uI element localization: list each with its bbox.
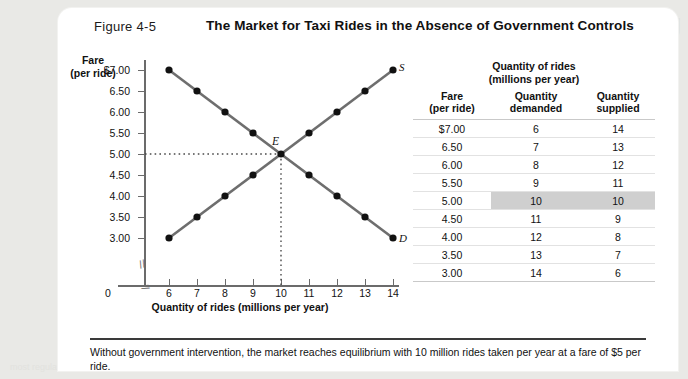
cell-demanded-highlighted: 10 bbox=[491, 192, 581, 210]
table-row: $7.00614 bbox=[413, 120, 655, 138]
cell-fare: 6.50 bbox=[413, 138, 491, 156]
figure-card: Figure 4-5 The Market for Taxi Rides in … bbox=[58, 8, 678, 371]
cell-fare: 6.00 bbox=[413, 156, 491, 174]
table-row: 4.50119 bbox=[413, 210, 655, 228]
column-header-quantity-supplied: Quantitysupplied bbox=[581, 88, 655, 120]
supply-demand-table: Fare(per ride) Quantitydemanded Quantity… bbox=[413, 88, 655, 282]
column-header-fare: Fare(per ride) bbox=[413, 88, 491, 120]
table-group-header: Quantity of rides (millions per year) bbox=[413, 60, 655, 88]
table-row-equilibrium: 5.001010 bbox=[413, 192, 655, 210]
supply-curve-label: S bbox=[399, 61, 405, 73]
figure-title: The Market for Taxi Rides in the Absence… bbox=[206, 18, 634, 33]
cell-fare: 5.50 bbox=[413, 174, 491, 192]
cell-demanded: 11 bbox=[491, 210, 581, 228]
figure-number: Figure 4-5 bbox=[94, 19, 156, 34]
table-row: 5.50911 bbox=[413, 174, 655, 192]
cell-supplied: 14 bbox=[581, 120, 655, 138]
table-row: 3.50137 bbox=[413, 246, 655, 264]
plot-svg bbox=[58, 46, 408, 326]
data-table-wrapper: Quantity of rides (millions per year) Fa… bbox=[413, 60, 655, 282]
cell-supplied: 7 bbox=[581, 246, 655, 264]
table-row: 3.00146 bbox=[413, 264, 655, 282]
cell-demanded: 9 bbox=[491, 174, 581, 192]
figure-header: Figure 4-5 The Market for Taxi Rides in … bbox=[58, 18, 678, 42]
cell-demanded: 14 bbox=[491, 264, 581, 282]
equilibrium-point-label: E bbox=[272, 135, 279, 147]
demand-curve-label: D bbox=[399, 232, 407, 244]
table-header-row: Fare(per ride) Quantitydemanded Quantity… bbox=[413, 88, 655, 120]
cell-demanded: 8 bbox=[491, 156, 581, 174]
cell-supplied: 13 bbox=[581, 138, 655, 156]
cell-fare: 5.00 bbox=[413, 192, 491, 210]
cell-fare: 3.50 bbox=[413, 246, 491, 264]
cell-supplied-highlighted: 10 bbox=[581, 192, 655, 210]
cell-supplied: 9 bbox=[581, 210, 655, 228]
cell-fare: $7.00 bbox=[413, 120, 491, 138]
x-axis-label: Quantity of rides (millions per year) bbox=[80, 301, 400, 313]
cell-fare: 4.50 bbox=[413, 210, 491, 228]
cell-demanded: 6 bbox=[491, 120, 581, 138]
cell-fare: 3.00 bbox=[413, 264, 491, 282]
table-row: 6.50713 bbox=[413, 138, 655, 156]
table-row: 6.00812 bbox=[413, 156, 655, 174]
cell-demanded: 13 bbox=[491, 246, 581, 264]
caption-divider bbox=[90, 338, 646, 340]
cell-demanded: 7 bbox=[491, 138, 581, 156]
cell-supplied: 6 bbox=[581, 264, 655, 282]
figure-caption: Without government intervention, the mar… bbox=[90, 345, 646, 373]
table-group-header-sub: (millions per year) bbox=[413, 73, 655, 86]
column-header-quantity-demanded: Quantitydemanded bbox=[491, 88, 581, 120]
cell-demanded: 12 bbox=[491, 228, 581, 246]
table-group-header-main: Quantity of rides bbox=[413, 60, 655, 73]
cell-supplied: 8 bbox=[581, 228, 655, 246]
cell-fare: 4.00 bbox=[413, 228, 491, 246]
chart-area: Fare (per ride) $7.00 6.50 6.00 5.50 5.0… bbox=[58, 46, 408, 326]
table-row: 4.00128 bbox=[413, 228, 655, 246]
cell-supplied: 11 bbox=[581, 174, 655, 192]
cell-supplied: 12 bbox=[581, 156, 655, 174]
table-body: $7.00614 6.50713 6.00812 5.50911 5.00101… bbox=[413, 120, 655, 282]
